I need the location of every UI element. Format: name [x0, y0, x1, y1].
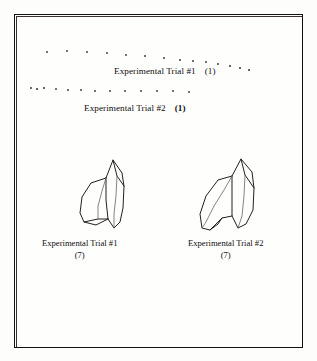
dot-mark — [140, 90, 142, 92]
top-label-trial-2-paren: (1) — [175, 103, 186, 113]
bottom-label-trial-1: Experimental Trial #1 (7) — [42, 238, 117, 261]
bottom-label-trial-2: Experimental Trial #2 (7) — [188, 238, 263, 261]
dot-mark — [156, 90, 158, 92]
dot-mark — [125, 54, 127, 56]
dot-mark — [172, 90, 174, 92]
dot-mark — [229, 65, 231, 67]
dot-mark — [179, 59, 181, 61]
top-label-trial-1: Experimental Trial #1(1) — [114, 66, 216, 76]
dot-mark — [239, 67, 241, 69]
top-label-trial-2-text: Experimental Trial #2 — [84, 103, 166, 113]
dot-mark — [94, 90, 96, 92]
dot-mark — [217, 63, 219, 65]
dot-mark — [46, 51, 48, 53]
dot-mark — [163, 57, 165, 59]
dot-mark — [67, 89, 69, 91]
dot-mark — [188, 91, 190, 93]
dot-mark — [36, 88, 38, 90]
dot-mark — [80, 89, 82, 91]
bottom-label-trial-2-sub: (7) — [188, 250, 263, 262]
dot-mark — [43, 87, 45, 89]
dot-mark — [144, 55, 146, 57]
dot-mark — [205, 61, 207, 63]
dot-mark — [106, 52, 108, 54]
bottom-label-trial-2-text: Experimental Trial #2 — [188, 238, 263, 248]
top-label-trial-1-paren: (1) — [205, 66, 216, 76]
sketch-trial-2 — [196, 156, 262, 236]
dot-mark — [124, 90, 126, 92]
figure-page: Experimental Trial #1(1) Experimental Tr… — [0, 0, 317, 361]
dot-mark — [55, 88, 57, 90]
bottom-label-trial-1-sub: (7) — [42, 250, 117, 262]
dot-mark — [109, 90, 111, 92]
sketch-trial-1 — [76, 156, 142, 234]
top-label-trial-2: Experimental Trial #2(1) — [84, 103, 186, 113]
top-label-trial-1-text: Experimental Trial #1 — [114, 66, 196, 76]
dot-mark — [248, 69, 250, 71]
dot-mark — [192, 60, 194, 62]
dot-mark — [30, 87, 32, 89]
bottom-label-trial-1-text: Experimental Trial #1 — [42, 238, 117, 248]
